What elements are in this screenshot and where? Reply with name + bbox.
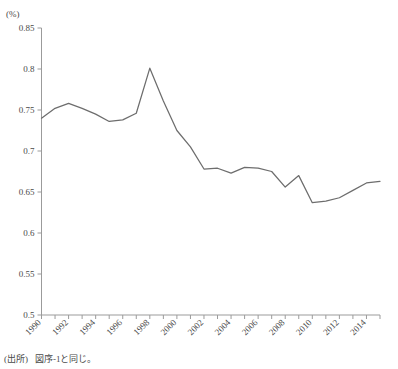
x-tick-labels: 1990199219941996199820002002200420062008… <box>23 317 368 337</box>
y-tick-label: 0.7 <box>23 146 35 156</box>
source-text: 図序-1と同じ。 <box>35 354 97 364</box>
x-tick-label: 2012 <box>321 317 341 337</box>
x-axis-group: 1990199219941996199820002002200420062008… <box>23 315 380 337</box>
source-note: (出所)図序-1と同じ。 <box>4 352 97 365</box>
plot-series-group <box>42 68 381 202</box>
x-tick-label: 1994 <box>77 317 97 337</box>
y-tick-label: 0.75 <box>19 105 35 115</box>
x-tick-label: 2014 <box>348 317 368 337</box>
figure-root: (%) 0.850.80.750.70.650.60.550.5 1990199… <box>0 0 398 369</box>
x-tick-label: 2006 <box>240 317 260 337</box>
line-chart: 0.850.80.750.70.650.60.550.5 19901992199… <box>0 0 398 369</box>
x-tick-marks <box>42 315 381 319</box>
y-tick-label: 0.8 <box>23 64 35 74</box>
x-tick-label: 2004 <box>213 317 233 337</box>
x-tick-label: 1998 <box>131 317 151 337</box>
y-axis-group: 0.850.80.750.70.650.60.550.5 <box>19 23 42 320</box>
x-tick-label: 1992 <box>50 317 70 337</box>
y-tick-label: 0.85 <box>19 23 35 33</box>
y-tick-label: 0.6 <box>23 228 35 238</box>
series-line-path <box>42 68 381 202</box>
source-label: (出所) <box>4 354 28 364</box>
y-tick-label: 0.65 <box>19 187 35 197</box>
y-tick-label: 0.55 <box>19 269 35 279</box>
y-tick-marks <box>38 28 42 315</box>
y-tick-labels: 0.850.80.750.70.650.60.550.5 <box>19 23 35 320</box>
x-tick-label: 2008 <box>267 317 287 337</box>
x-tick-label: 2010 <box>294 317 314 337</box>
x-tick-label: 1996 <box>104 317 124 337</box>
x-tick-label: 2000 <box>159 317 179 337</box>
x-tick-label: 2002 <box>186 317 206 337</box>
